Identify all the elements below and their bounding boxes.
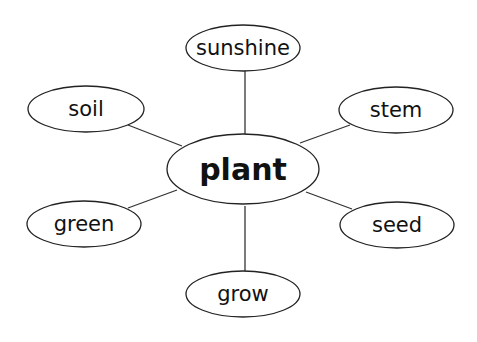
node-label: sunshine <box>196 36 290 60</box>
edge-stem <box>300 125 350 143</box>
center-node: plant <box>167 134 319 204</box>
node-label: grow <box>217 282 269 306</box>
edge-soil <box>128 125 182 146</box>
edge-seed <box>306 192 352 209</box>
node-label: seed <box>372 213 422 237</box>
node-label: stem <box>370 98 423 122</box>
node-stem: stem <box>339 87 453 133</box>
word-web-diagram: sunshinesoilstemgreenseedgrow plant <box>0 0 477 342</box>
node-soil: soil <box>28 86 144 132</box>
center-label: plant <box>199 152 287 187</box>
edge-green <box>128 190 177 208</box>
node-grow: grow <box>186 271 300 317</box>
node-green: green <box>27 201 141 247</box>
node-seed: seed <box>340 202 454 248</box>
node-label: soil <box>68 97 103 121</box>
node-label: green <box>54 212 115 236</box>
node-sunshine: sunshine <box>186 25 300 71</box>
